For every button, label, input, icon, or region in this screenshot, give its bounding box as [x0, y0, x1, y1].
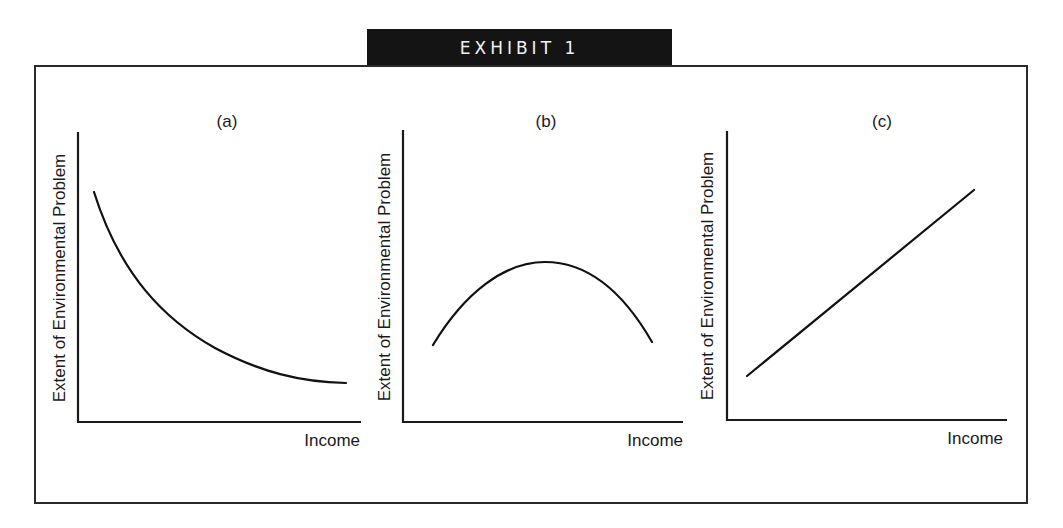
panel-a-curve — [94, 192, 346, 383]
panel-b-curve — [433, 262, 652, 345]
panel-b-label: (b) — [536, 112, 557, 131]
panel-b: (b) Income Extent of Environmental Probl… — [375, 112, 683, 450]
panel-a-x-label: Income — [304, 431, 360, 450]
panel-a: (a) Income Extent of Environmental Probl… — [50, 112, 361, 450]
panel-c-y-label: Extent of Environmental Problem — [698, 152, 717, 401]
panel-b-y-label: Extent of Environmental Problem — [375, 153, 394, 402]
panel-c-x-label: Income — [947, 429, 1003, 448]
panel-a-y-label: Extent of Environmental Problem — [50, 154, 69, 403]
panel-a-label: (a) — [217, 112, 238, 131]
panel-b-x-label: Income — [627, 431, 683, 450]
panel-c-line — [747, 190, 974, 376]
figure-canvas: (a) Income Extent of Environmental Probl… — [0, 0, 1063, 528]
panel-c-label: (c) — [872, 112, 892, 131]
panel-c: (c) Income Extent of Environmental Probl… — [698, 112, 1007, 448]
